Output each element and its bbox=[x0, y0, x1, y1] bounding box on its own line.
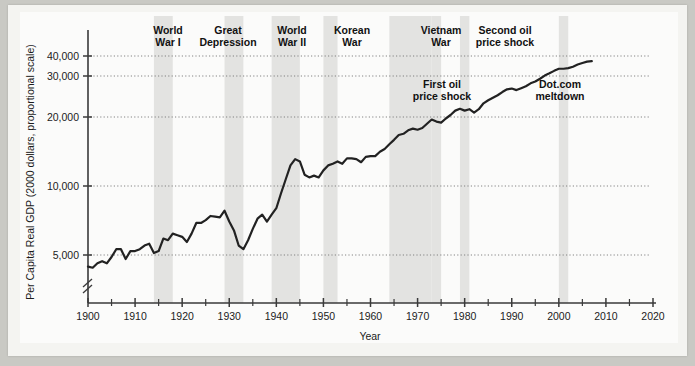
gdp-line-chart: 5,00010,00020,00030,00040,000 1900191019… bbox=[0, 0, 695, 366]
x-tick-label: 1910 bbox=[123, 310, 147, 322]
y-tick-label: 20,000 bbox=[47, 111, 79, 123]
annotation-label: Great bbox=[214, 24, 242, 36]
y-tick-label: 10,000 bbox=[47, 180, 79, 192]
y-tick-label: 40,000 bbox=[47, 50, 79, 62]
annotations-group: WorldWar IGreatDepressionWorldWar IIKore… bbox=[153, 24, 584, 102]
annotation-label: Dot.com bbox=[539, 78, 581, 90]
x-tick-label: 2020 bbox=[641, 310, 665, 322]
annotation-label: War bbox=[431, 36, 450, 48]
annotation-label: War II bbox=[278, 36, 306, 48]
y-tick-label: 5,000 bbox=[53, 249, 79, 261]
x-tick-label: 1980 bbox=[453, 310, 477, 322]
figure-root: 5,00010,00020,00030,00040,000 1900191019… bbox=[0, 0, 695, 366]
shaded-band-1 bbox=[154, 16, 173, 303]
y-tick-label: 30,000 bbox=[47, 70, 79, 82]
annotation-label: Korean bbox=[334, 24, 370, 36]
annotation-label: meltdown bbox=[536, 90, 585, 102]
shaded-band-8 bbox=[559, 16, 568, 303]
annotation-label: First oil bbox=[423, 78, 461, 90]
x-tick-label: 1930 bbox=[218, 310, 242, 322]
annotation-label: World bbox=[277, 24, 307, 36]
shaded-band-2 bbox=[225, 16, 244, 303]
x-tick-label: 1970 bbox=[406, 310, 430, 322]
y-axis-title: Per Capita Real GDP (2000 dollars, propo… bbox=[24, 44, 36, 299]
annotation-label: price shock bbox=[476, 36, 535, 48]
shaded-band-7 bbox=[460, 16, 469, 303]
shaded-band-4 bbox=[323, 16, 337, 303]
shaded-band-5 bbox=[389, 16, 431, 303]
x-tick-label: 1900 bbox=[76, 310, 100, 322]
x-axis-title: Year bbox=[359, 330, 381, 342]
annotation-label: price shock bbox=[413, 90, 472, 102]
annotation-label: War I bbox=[155, 36, 180, 48]
y-axis-group: 5,00010,00020,00030,00040,000 bbox=[47, 30, 92, 303]
annotation-label: Vietnam bbox=[421, 24, 462, 36]
shaded-bands-group bbox=[154, 16, 568, 303]
x-tick-label: 1920 bbox=[170, 310, 194, 322]
annotation-label: World bbox=[153, 24, 183, 36]
x-tick-label: 1950 bbox=[312, 310, 336, 322]
x-tick-label: 1940 bbox=[265, 310, 289, 322]
annotation-label: Depression bbox=[199, 36, 256, 48]
x-tick-label: 2000 bbox=[547, 310, 571, 322]
annotation-label: War bbox=[342, 36, 361, 48]
shaded-band-6 bbox=[432, 16, 441, 303]
x-tick-label: 1990 bbox=[500, 310, 524, 322]
x-tick-label: 1960 bbox=[359, 310, 383, 322]
x-tick-label: 2010 bbox=[594, 310, 618, 322]
annotation-label: Second oil bbox=[478, 24, 531, 36]
